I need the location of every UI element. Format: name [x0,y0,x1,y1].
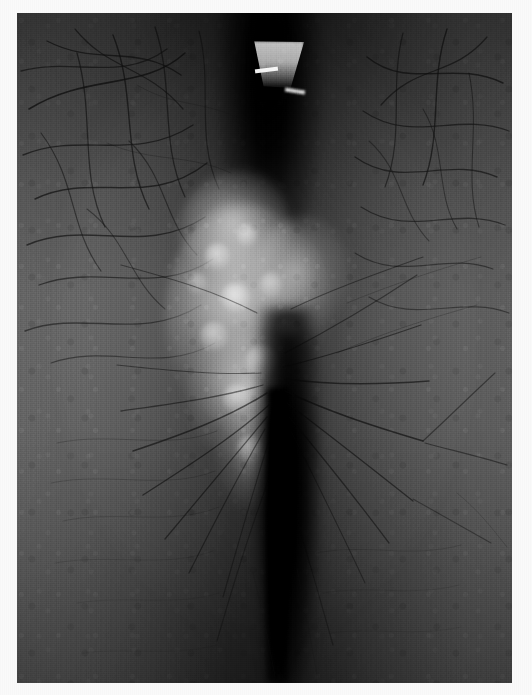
photograph-page [0,0,532,695]
hair-filament-layer-secondary [17,13,512,683]
clinical-photograph-image [17,13,512,683]
